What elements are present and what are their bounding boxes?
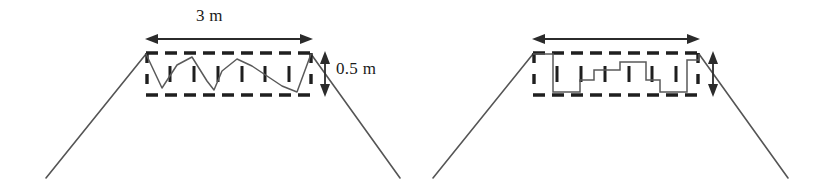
height-dimension-arrow <box>708 51 718 97</box>
staircase-path-panel: 3 m 0.5 m <box>414 0 828 188</box>
height-dimension-label: 0.5 m <box>336 59 376 79</box>
valley-slope-lines <box>433 54 788 178</box>
width-dimension-arrow <box>145 34 313 44</box>
zigzag-path-panel: 3 m 0.5 m <box>0 0 414 188</box>
figure-container: 3 m 0.5 m <box>0 0 828 188</box>
width-dimension-arrow <box>532 34 700 44</box>
height-dimension-arrow <box>320 51 330 97</box>
width-dimension-label: 3 m <box>196 6 223 26</box>
